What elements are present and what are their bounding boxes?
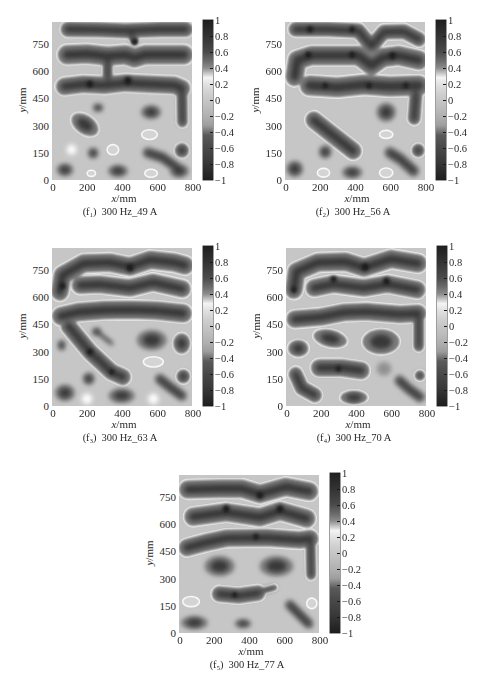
colorbar-tick-label: 0	[448, 95, 453, 106]
colorbar-tick-label: −0.2	[215, 337, 234, 348]
colorbar-tick-label: 0.2	[448, 79, 461, 90]
colorbar-ticks: 10.80.60.40.20−0.2−0.4−0.6−0.8−1	[0, 0, 240, 222]
caption-suffix: )	[93, 206, 97, 217]
colorbar-tick-label: −0.6	[215, 143, 234, 154]
caption-prefix: (f	[83, 432, 90, 443]
caption-prefix: (f	[317, 432, 324, 443]
colorbar-tick-label: −0.8	[215, 159, 234, 170]
colorbar-tick-label: −0.8	[449, 385, 468, 396]
colorbar-tick-mark	[443, 164, 446, 165]
colorbar-tick-label: 0.8	[215, 257, 228, 268]
colorbar-tick-label: −0.6	[448, 143, 467, 154]
colorbar-tick-mark	[444, 310, 447, 311]
colorbar-tick-mark	[210, 294, 213, 295]
colorbar-tick-label: 0.8	[449, 257, 462, 268]
colorbar-tick-label: −1	[215, 175, 226, 186]
colorbar-tick-mark	[444, 390, 447, 391]
colorbar-tick-label: −0.8	[448, 159, 467, 170]
colorbar-tick-mark	[210, 100, 213, 101]
heatmap-panel-f5: y/mm 0150300450600750 0200400600800 x/mm…	[127, 453, 367, 675]
colorbar-tick-label: 1	[215, 241, 220, 252]
colorbar-tick-mark	[337, 585, 340, 586]
colorbar-tick-label: 0.2	[215, 305, 228, 316]
colorbar-tick-mark	[443, 148, 446, 149]
caption-suffix: )	[326, 206, 330, 217]
colorbar-tick-label: 0.8	[215, 31, 228, 42]
colorbar-tick-label: 1	[215, 15, 220, 26]
colorbar-tick-label: 0.8	[448, 31, 461, 42]
colorbar-tick-label: −1	[448, 175, 459, 186]
heatmap-panel-f1: y/mm 0150300450600750 0200400600800 x/mm…	[0, 0, 240, 222]
colorbar-tick-mark	[337, 473, 340, 474]
colorbar-tick-mark	[210, 262, 213, 263]
colorbar-tick-label: 1	[342, 468, 347, 479]
colorbar-tick-mark	[210, 68, 213, 69]
colorbar-tick-mark	[210, 179, 213, 180]
colorbar-tick-label: 0.4	[449, 289, 462, 300]
colorbar-tick-mark	[210, 374, 213, 375]
colorbar-tick-mark	[210, 342, 213, 343]
colorbar-tick-mark	[443, 52, 446, 53]
colorbar-ticks: 10.80.60.40.20−0.2−0.4−0.6−0.8−1	[127, 453, 367, 675]
colorbar-tick-mark	[443, 179, 446, 180]
colorbar-tick-label: −0.4	[342, 580, 361, 591]
panel-caption: (f2)300 Hz_56 A	[316, 206, 391, 218]
colorbar-tick-mark	[443, 116, 446, 117]
panel-caption: (f5)300 Hz_77 A	[210, 659, 285, 671]
colorbar-tick-mark	[210, 148, 213, 149]
panel-caption: (f4)300 Hz_70 A	[317, 432, 392, 444]
caption-suffix: )	[220, 659, 224, 670]
colorbar-tick-mark	[210, 390, 213, 391]
colorbar-tick-label: −1	[449, 401, 460, 412]
colorbar-ticks: 10.80.60.40.20−0.2−0.4−0.6−0.8−1	[233, 0, 473, 222]
colorbar-tick-mark	[444, 294, 447, 295]
colorbar-tick-mark	[337, 521, 340, 522]
colorbar-tick-mark	[210, 310, 213, 311]
colorbar-tick-mark	[210, 36, 213, 37]
colorbar-tick-mark	[337, 489, 340, 490]
heatmap-panel-f4: y/mm 0150300450600750 0200400600800 x/mm…	[234, 226, 474, 448]
caption-suffix: )	[93, 432, 97, 443]
colorbar-tick-label: 0.8	[342, 484, 355, 495]
colorbar-tick-mark	[444, 278, 447, 279]
heatmap-panel-f2: y/mm 0150300450600750 0200400600800 x/mm…	[233, 0, 473, 222]
colorbar-tick-label: 0.6	[215, 273, 228, 284]
colorbar-tick-mark	[443, 84, 446, 85]
colorbar-tick-label: 0.4	[215, 63, 228, 74]
colorbar-tick-label: 0.6	[448, 47, 461, 58]
colorbar-tick-label: 0.4	[215, 289, 228, 300]
colorbar-tick-mark	[444, 358, 447, 359]
colorbar-tick-mark	[337, 553, 340, 554]
colorbar-tick-label: 0.2	[449, 305, 462, 316]
colorbar-tick-mark	[210, 20, 213, 21]
colorbar-tick-label: 1	[449, 241, 454, 252]
colorbar-tick-mark	[210, 246, 213, 247]
colorbar-tick-label: −0.6	[215, 369, 234, 380]
colorbar-tick-label: −0.4	[215, 127, 234, 138]
colorbar-tick-label: 0	[342, 548, 347, 559]
colorbar-tick-mark	[337, 632, 340, 633]
colorbar-tick-mark	[210, 405, 213, 406]
colorbar-tick-mark	[443, 100, 446, 101]
colorbar-tick-mark	[444, 374, 447, 375]
heatmap-panel-f3: y/mm 0150300450600750 0200400600800 x/mm…	[0, 226, 240, 448]
colorbar-tick-mark	[444, 262, 447, 263]
colorbar-tick-mark	[210, 52, 213, 53]
colorbar-tick-mark	[210, 132, 213, 133]
caption-text: 300 Hz_70 A	[335, 432, 391, 443]
colorbar-tick-mark	[210, 116, 213, 117]
colorbar-tick-label: 1	[448, 15, 453, 26]
caption-prefix: (f	[210, 659, 217, 670]
colorbar-tick-label: 0.6	[215, 47, 228, 58]
colorbar-ticks: 10.80.60.40.20−0.2−0.4−0.6−0.8−1	[234, 226, 474, 448]
colorbar-tick-label: −1	[215, 401, 226, 412]
colorbar-tick-label: −0.2	[342, 564, 361, 575]
colorbar-tick-label: −0.8	[342, 612, 361, 623]
colorbar-tick-label: 0.6	[449, 273, 462, 284]
colorbar-tick-mark	[337, 537, 340, 538]
caption-suffix: )	[327, 432, 331, 443]
colorbar-tick-mark	[443, 68, 446, 69]
caption-text: 300 Hz_63 A	[101, 432, 157, 443]
colorbar-ticks: 10.80.60.40.20−0.2−0.4−0.6−0.8−1	[0, 226, 240, 448]
colorbar-tick-mark	[337, 601, 340, 602]
